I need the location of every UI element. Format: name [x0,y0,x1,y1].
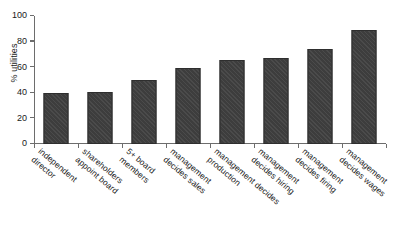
x-axis-category-label: managementdecides wages [337,146,394,199]
x-axis-labels: independentdirectorshareholdersappoint b… [34,146,386,230]
bar-slot [342,16,386,144]
bar [88,92,113,144]
bar [308,49,333,144]
x-axis-category-label: managementdecides sales [161,146,214,196]
x-axis-category-label: managementdecides firing [293,146,345,195]
x-axis-tick [386,144,387,148]
y-axis-tick-label: 20 [17,113,27,123]
bar-slot [34,16,78,144]
x-axis-category-label: independentdirector [29,146,79,193]
bar [176,68,201,144]
y-axis-tick-label: 40 [17,87,27,97]
bar [264,58,289,144]
plot-area: 020406080100 [34,16,386,144]
bar-slot [78,16,122,144]
bar [132,80,157,144]
y-axis-tick-label: 60 [17,62,27,72]
x-axis-category-label: shareholdersappoint board [73,146,127,196]
bar-series [34,16,386,144]
bar-slot [254,16,298,144]
y-axis-tick-label: 0 [22,138,27,148]
bar-slot [210,16,254,144]
y-axis-tick-label: 80 [17,36,27,46]
bar [220,60,245,144]
bar-chart-figure: % utilities 020406080100 independentdire… [0,0,399,230]
y-axis-tick-label: 100 [12,10,27,20]
bar-slot [298,16,342,144]
bar-slot [122,16,166,144]
bar [44,93,69,144]
bar-slot [166,16,210,144]
bar [352,30,377,144]
